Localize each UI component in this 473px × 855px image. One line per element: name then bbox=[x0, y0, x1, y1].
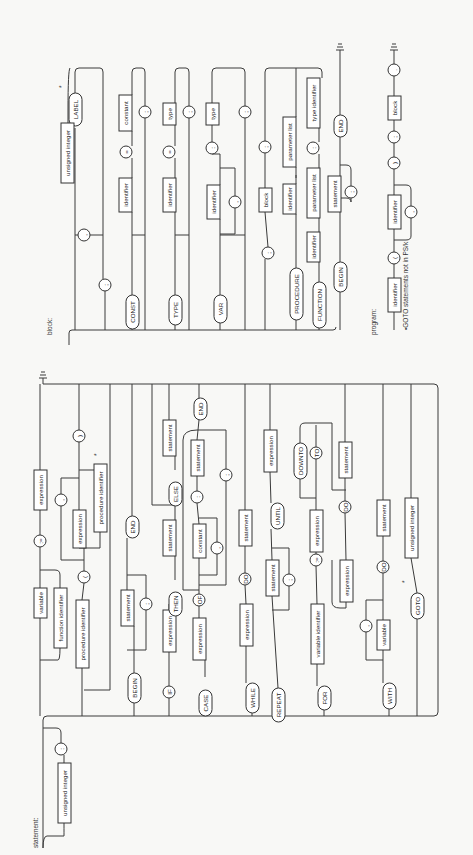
node-label: : bbox=[194, 496, 201, 498]
block-node-procedure: PROCEDURE bbox=[290, 268, 303, 320]
node-label: procedure identifier bbox=[97, 472, 104, 525]
node-label: WHILE bbox=[249, 688, 256, 708]
node-label: identifier bbox=[166, 183, 173, 206]
statement-node-variable: variable bbox=[34, 588, 47, 618]
node-label: := bbox=[37, 538, 44, 544]
caption-footnote: •GOTO statements not in PS/k bbox=[402, 241, 409, 330]
statement-node-end: END bbox=[126, 516, 139, 538]
node-label: BEGIN bbox=[337, 267, 344, 286]
block-node-type: type bbox=[163, 103, 176, 125]
statement-node-to: TO bbox=[310, 447, 322, 459]
node-label: : bbox=[58, 748, 65, 750]
node-label: : bbox=[310, 147, 317, 149]
statement-rails bbox=[39, 372, 438, 848]
node-label: identifier bbox=[286, 187, 293, 210]
statement-node-expression: expression bbox=[73, 510, 86, 548]
statement-node-: , bbox=[360, 620, 372, 632]
node-label: expression bbox=[196, 623, 203, 653]
statement-node-variable: variable bbox=[377, 620, 390, 650]
node-label: DOWNTO bbox=[297, 447, 304, 475]
block-node-: = bbox=[120, 146, 132, 158]
program-node-identifier: identifier bbox=[388, 278, 401, 312]
node-label: PROCEDURE bbox=[293, 274, 300, 314]
statement-node-statement: statement bbox=[339, 442, 352, 478]
statement-node-else: ELSE bbox=[169, 482, 182, 506]
node-label: parameter list bbox=[286, 123, 293, 161]
statement-node-statement: statement bbox=[239, 510, 252, 546]
node-label: END bbox=[129, 520, 136, 534]
node-label: identifier bbox=[122, 183, 129, 206]
node-label: ; bbox=[143, 603, 150, 605]
node-label: FUNCTION bbox=[316, 289, 323, 321]
node-label: DO bbox=[242, 574, 249, 583]
statement-node-expression: expression bbox=[340, 560, 353, 602]
node-label: identifier bbox=[391, 283, 398, 306]
statement-node-statement: statement bbox=[266, 560, 279, 596]
node-label: identifier bbox=[391, 200, 398, 223]
node-label: BEGIN bbox=[131, 678, 138, 697]
node-label: , bbox=[363, 625, 370, 627]
node-label: , bbox=[232, 201, 239, 203]
node-label: VAR bbox=[217, 302, 224, 315]
node-label: statement bbox=[166, 424, 173, 451]
program-node-: ( bbox=[388, 252, 400, 264]
program-node-block: block bbox=[388, 96, 401, 120]
node-label: ELSE bbox=[172, 486, 179, 502]
node-label: variable bbox=[380, 624, 387, 646]
node-label: ; bbox=[142, 111, 149, 113]
node-label: expression bbox=[343, 565, 350, 595]
block-node-type: type bbox=[206, 103, 219, 125]
block-node-: ; bbox=[239, 106, 251, 118]
node-label: expression bbox=[313, 515, 320, 545]
statement-node-statement: statement bbox=[377, 500, 390, 536]
node-label: . bbox=[391, 69, 398, 71]
node-label: variable identifier bbox=[314, 611, 321, 658]
statement-node-: ; bbox=[220, 469, 232, 481]
node-label: statement bbox=[331, 180, 338, 207]
label-goto-asterisk: * bbox=[58, 85, 65, 88]
statement-node-: ; bbox=[140, 598, 152, 610]
node-label: , bbox=[58, 499, 65, 501]
statement-node-while: WHILE bbox=[246, 683, 259, 713]
block-node-: ; bbox=[99, 279, 111, 291]
node-label: expression bbox=[166, 615, 173, 645]
node-label: function identifier bbox=[57, 595, 64, 642]
block-node-: ; bbox=[259, 141, 271, 153]
node-label: END bbox=[197, 402, 204, 416]
node-label: statement bbox=[194, 444, 201, 471]
block-node-constant: constant bbox=[119, 95, 132, 131]
node-label: ) bbox=[76, 435, 83, 437]
program-node-identifier: identifier bbox=[388, 195, 401, 229]
node-label: expression bbox=[76, 513, 83, 543]
block-node-var: VAR bbox=[214, 295, 227, 323]
node-label: type bbox=[209, 108, 216, 120]
node-label: , bbox=[214, 547, 221, 549]
statement-node-begin: BEGIN bbox=[128, 673, 141, 703]
block-node-type: TYPE bbox=[169, 295, 182, 325]
statement-node-unsigned-integer: unsigned integer bbox=[405, 498, 418, 558]
block-node-identifier: identifier bbox=[163, 178, 176, 212]
procedure-asterisk: * bbox=[93, 453, 100, 456]
node-label: ; bbox=[223, 474, 230, 476]
goto-asterisk: * bbox=[401, 580, 408, 583]
block-node-type-identifier: type identifier bbox=[307, 78, 320, 128]
node-label: ; bbox=[262, 146, 269, 148]
node-label: UNTIL bbox=[274, 507, 281, 525]
node-label: = bbox=[166, 150, 173, 154]
node-label: constant bbox=[122, 101, 129, 125]
block-node-: , bbox=[78, 229, 90, 241]
node-label: CASE bbox=[202, 695, 209, 712]
caption-statement: statement: bbox=[32, 817, 39, 848]
statement-node-expression: expression bbox=[34, 470, 47, 510]
node-label: TO bbox=[313, 449, 320, 458]
block-node-: : bbox=[206, 142, 218, 154]
statement-node-: ) bbox=[73, 430, 85, 442]
syntax-diagram-page: block: program: •GOTO statements not in … bbox=[0, 0, 473, 855]
node-label: : bbox=[209, 147, 216, 149]
block-node-: : bbox=[307, 142, 319, 154]
block-node-label: LABEL bbox=[69, 93, 82, 126]
node-label: ; bbox=[265, 252, 272, 254]
node-label: identifier bbox=[310, 235, 317, 258]
statement-node-: := bbox=[310, 554, 322, 566]
node-label: procedure identifier bbox=[79, 608, 86, 661]
